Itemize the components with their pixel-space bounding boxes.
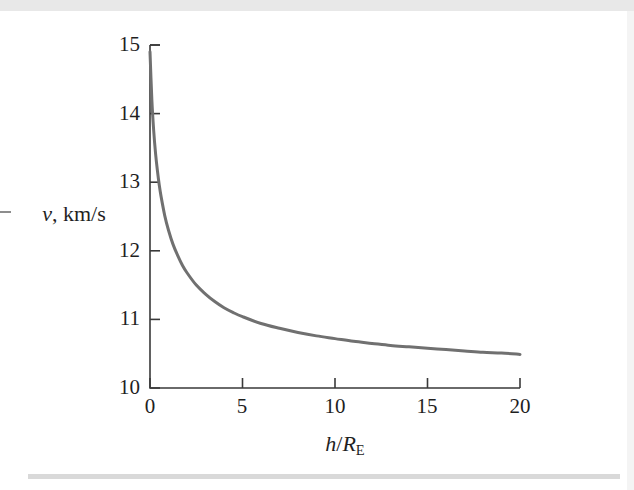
- y-tick-label-11: 11: [96, 308, 140, 329]
- velocity-curve: [150, 52, 520, 355]
- x-axis-label: h/RE: [285, 433, 405, 458]
- y-tick-label-12: 12: [96, 240, 140, 261]
- x-tick-label-10: 10: [315, 396, 355, 417]
- axis-spines: [150, 45, 520, 388]
- y-tick-label-10: 10: [96, 377, 140, 398]
- x-tick-label-5: 5: [222, 396, 262, 417]
- y-tick-label-13: 13: [96, 171, 140, 192]
- y-axis-separator: ,: [52, 201, 63, 226]
- x-tick-label-0: 0: [130, 396, 170, 417]
- x-tick-label-15: 15: [407, 396, 447, 417]
- y-axis-label: v, km/s: [14, 203, 134, 225]
- y-axis-units: km/s: [63, 201, 106, 226]
- x-axis-denominator: R: [342, 431, 355, 456]
- escape-velocity-chart: 15 14 13 12 11 10 0 5 10 15 20 v, km/s h…: [0, 0, 634, 490]
- x-tick-label-20: 20: [500, 396, 540, 417]
- axes: [150, 45, 520, 388]
- y-tick-label-14: 14: [96, 103, 140, 124]
- x-axis-numerator: h: [325, 431, 336, 456]
- y-tick-label-15: 15: [96, 34, 140, 55]
- y-axis-variable: v: [42, 201, 52, 226]
- x-axis-subscript: E: [356, 442, 365, 458]
- x-axis-ticks: [150, 378, 520, 388]
